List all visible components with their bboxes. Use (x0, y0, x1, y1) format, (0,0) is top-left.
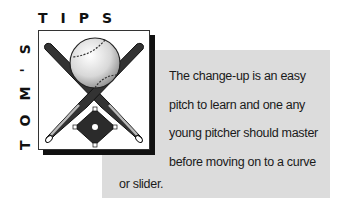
tip-text: The change-up is an easy pitch to learn … (119, 62, 324, 199)
tip-line: The change-up is an easy (119, 62, 324, 91)
baseball-icon (70, 38, 120, 88)
toms-vertical-heading: TOM'S (16, 30, 34, 150)
tip-line: young pitcher should master (119, 119, 324, 148)
tip-line: pitch to learn and one any (119, 91, 324, 120)
tips-heading: TIPS (38, 9, 125, 27)
